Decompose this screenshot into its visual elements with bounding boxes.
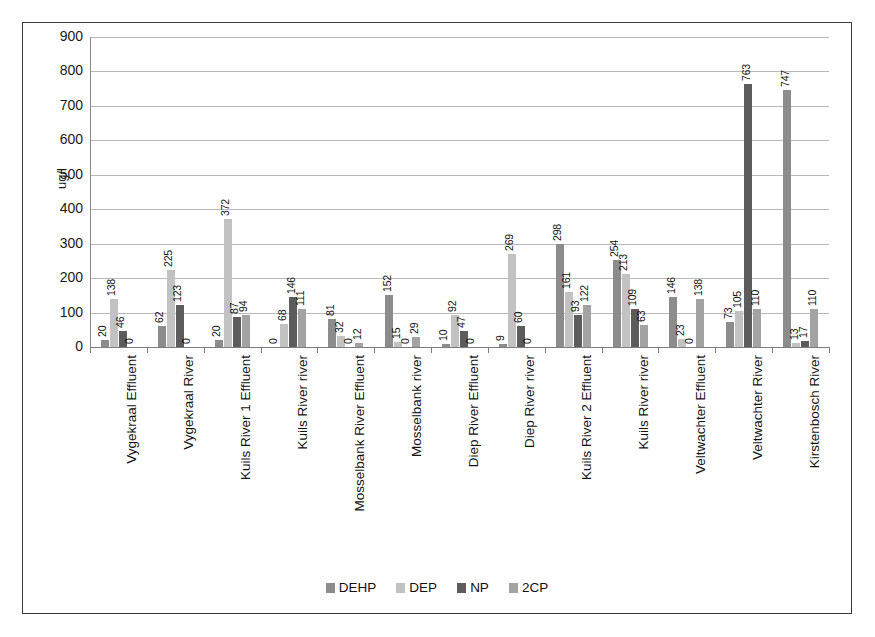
bar-value-label: 146 [665, 277, 677, 294]
bar[interactable] [583, 305, 591, 347]
bar-value-label: 73 [722, 308, 734, 319]
x-axis-category-label: Kuils River river [295, 355, 310, 450]
x-axis-tickmark [261, 347, 262, 353]
legend-label: DEHP [339, 580, 377, 595]
x-axis-tickmarks [90, 347, 829, 354]
bar[interactable] [242, 315, 250, 347]
bar-value-label: 747 [779, 70, 791, 87]
bar-value-label: 0 [683, 338, 695, 344]
bar[interactable] [298, 309, 306, 347]
bar[interactable] [556, 244, 564, 347]
bar-value-label: 29 [408, 323, 420, 334]
bar-value-label: 0 [399, 338, 411, 344]
bar-value-label: 138 [105, 280, 117, 297]
bar[interactable] [215, 340, 223, 347]
legend-item[interactable]: DEHP [326, 580, 377, 595]
bar-value-label: 32 [333, 322, 345, 333]
x-axis-tickmark [602, 347, 603, 353]
legend-swatch-icon [509, 583, 518, 593]
bar-value-label: 269 [503, 234, 515, 251]
bar-value-label: 94 [237, 300, 249, 311]
x-axis-tickmark [772, 347, 773, 353]
bar[interactable] [669, 297, 677, 347]
bar-value-label: 109 [626, 290, 638, 307]
bar-value-label: 123 [171, 285, 183, 302]
bar-value-label: 213 [617, 254, 629, 271]
bar-value-label: 92 [446, 301, 458, 312]
x-axis-tickmark [204, 347, 205, 353]
bar[interactable] [280, 324, 288, 347]
y-axis-tick-label: 0 [39, 338, 83, 354]
x-axis-tickmark [488, 347, 489, 353]
bar-value-label: 763 [740, 64, 752, 81]
bar[interactable] [783, 90, 791, 347]
legend-swatch-icon [457, 583, 466, 593]
bar-value-label: 60 [512, 312, 524, 323]
bar[interactable] [412, 337, 420, 347]
bar[interactable] [224, 219, 232, 347]
bar-group: 1092470 [431, 37, 488, 347]
x-axis-tickmark [545, 347, 546, 353]
bar[interactable] [101, 340, 109, 347]
bar-group: 73105763110 [715, 37, 772, 347]
bar-value-label: 63 [635, 311, 647, 322]
x-axis-category-label: Mosselbank River Effluent [352, 355, 367, 512]
bar-value-label: 298 [551, 224, 563, 241]
bar-group: 146230138 [658, 37, 715, 347]
x-axis-category-label: Vygekraal River [181, 355, 196, 450]
bar-value-label: 110 [806, 290, 818, 306]
chart-frame: ug/l 9008007006005004003002001000 201384… [22, 22, 852, 614]
bar-value-label: 110 [749, 290, 761, 306]
bar[interactable] [744, 84, 752, 347]
y-axis-tick-label: 100 [39, 304, 83, 320]
bar-group: 25421310963 [602, 37, 659, 347]
bar-value-label: 0 [123, 338, 135, 344]
bar[interactable] [158, 326, 166, 347]
bar[interactable] [574, 315, 582, 347]
bar-group: 068146111 [261, 37, 318, 347]
x-axis-category-label: Diep River river [522, 355, 537, 448]
bar[interactable] [233, 317, 241, 347]
bar-group: 20138460 [90, 37, 147, 347]
chart-legend: DEHPDEPNP2CP [23, 580, 851, 595]
bar[interactable] [613, 260, 621, 347]
bar-value-label: 23 [674, 325, 686, 336]
legend-item[interactable]: 2CP [509, 580, 548, 595]
y-axis-tick-label: 800 [39, 62, 83, 78]
plot-area: 2013846062225123020372879406814611181320… [90, 37, 829, 347]
y-axis-tick-label: 500 [39, 166, 83, 182]
x-axis-category-labels: Vygekraal EffluentVygekraal RiverKuils R… [90, 355, 829, 555]
bar[interactable] [696, 299, 704, 347]
bar[interactable] [735, 311, 743, 347]
bar-value-label: 372 [219, 199, 231, 216]
x-axis-category-label: Vygekraal Effluent [124, 355, 139, 464]
legend-swatch-icon [326, 583, 335, 593]
bar[interactable] [810, 309, 818, 347]
bar-value-label: 47 [455, 317, 467, 328]
bar[interactable] [640, 325, 648, 347]
bar[interactable] [508, 254, 516, 347]
bar[interactable] [385, 295, 393, 347]
bar[interactable] [726, 322, 734, 347]
bar-group: 9269600 [488, 37, 545, 347]
bar-value-label: 68 [276, 309, 288, 320]
legend-label: DEP [409, 580, 437, 595]
bar-value-label: 111 [294, 290, 306, 305]
bar-group: 622251230 [147, 37, 204, 347]
bar[interactable] [753, 309, 761, 347]
bar-value-label: 0 [180, 338, 192, 344]
bar[interactable] [167, 270, 175, 348]
legend-item[interactable]: NP [457, 580, 489, 595]
bar[interactable] [622, 274, 630, 347]
bar-value-label: 0 [521, 338, 533, 344]
x-axis-tickmark [431, 347, 432, 353]
bar-value-label: 105 [731, 291, 743, 308]
bar-value-label: 0 [464, 338, 476, 344]
x-axis-tickmark [317, 347, 318, 353]
x-axis-tickmark [715, 347, 716, 353]
bar-value-label: 10 [437, 329, 449, 340]
y-axis-tick-label: 900 [39, 28, 83, 44]
bar-group: 29816193122 [545, 37, 602, 347]
legend-item[interactable]: DEP [396, 580, 437, 595]
y-axis-tick-label: 700 [39, 97, 83, 113]
